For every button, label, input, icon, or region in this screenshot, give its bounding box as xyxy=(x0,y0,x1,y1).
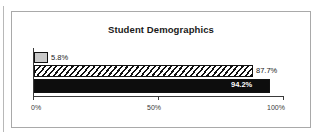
chart-panel: Student Demographics 0% 50% 100% 5.8% 87… xyxy=(11,11,311,128)
bar-series-2 xyxy=(34,65,253,77)
data-label-series-2: 87.7% xyxy=(256,66,277,75)
x-axis-tick-0 xyxy=(33,96,34,100)
x-axis-tick-label-100: 100% xyxy=(267,104,285,111)
plot-area: 0% 50% 100% 5.8% 87.7% 94.2% xyxy=(33,48,284,104)
chart-title: Student Demographics xyxy=(12,24,310,35)
data-label-series-3: 94.2% xyxy=(231,80,252,89)
bar-series-1 xyxy=(34,52,48,63)
data-label-series-1: 5.8% xyxy=(51,53,68,62)
x-axis-tick-label-50: 50% xyxy=(147,104,161,111)
x-axis-tick-100 xyxy=(283,96,284,100)
x-axis-tick-label-0: 0% xyxy=(31,104,41,111)
adjacent-panel-edge xyxy=(0,6,4,132)
x-axis-tick-50 xyxy=(158,96,159,100)
